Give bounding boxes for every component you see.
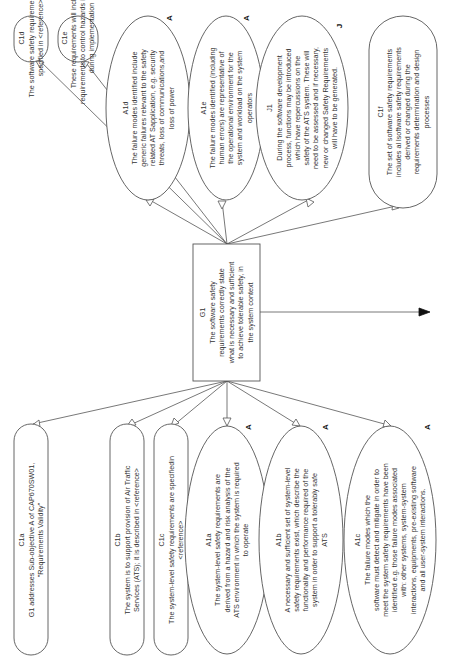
node-text-line: Services (ATS); it is described in <refe… <box>132 468 141 612</box>
goal-id-label: G1 <box>198 308 207 318</box>
node-text-line: process, functions may be introduced <box>284 48 293 167</box>
node-id-label: C1c <box>157 533 166 546</box>
node-c1b[interactable]: C1bThe system is to support provision of… <box>110 424 144 655</box>
assumption-tag: A <box>423 424 432 430</box>
node-text-line: need to be assessed and if necessary, <box>311 47 320 169</box>
node-text-line: which have repercussions on the <box>293 56 302 162</box>
node-text-line: The system is to support provision of Ai… <box>123 465 132 614</box>
node-c1d[interactable]: C1dThe software safety requirements ares… <box>14 0 48 98</box>
edge-g1-c1f <box>227 206 396 244</box>
node-text-line: interactions, equipments, pre-existing s… <box>409 466 418 614</box>
node-c1a[interactable]: C1aG1 addresses Sub-objective A of CAP67… <box>14 424 48 655</box>
edge-g1-a1b <box>227 381 298 425</box>
node-a1e[interactable]: A1eThe failure modes identified (includi… <box>188 15 264 200</box>
node-text-line: to operate <box>241 524 250 556</box>
edges-bottom <box>31 381 391 427</box>
node-id-label: C1d <box>17 31 26 44</box>
node-text-line: The set of software safety requirements <box>385 48 394 175</box>
goal-text-line: The software safety <box>208 281 217 344</box>
goal-text-line: the system context <box>246 283 255 343</box>
node-text-line: will have to be generated. <box>330 67 339 150</box>
assumption-tag: A <box>165 15 174 21</box>
node-text-line: new or changed Safety Requirements <box>321 47 330 168</box>
assumption-tag: A <box>242 15 251 21</box>
edge-g1-c1a <box>33 381 227 424</box>
arrowhead-a1e <box>218 201 226 209</box>
node-a1b[interactable]: A1bA necessary and sufficient set of sys… <box>259 424 343 654</box>
node-id-label: A1d <box>121 102 130 115</box>
node-text-line: during implementation <box>87 3 96 74</box>
node-id-label: A1b <box>274 534 283 547</box>
node-text-line: "Requirements Validity" <box>36 502 45 577</box>
node-j1[interactable]: J1During the software developmentprocess… <box>256 16 348 200</box>
edge-g1-c1b <box>130 381 227 425</box>
solution-arrow <box>260 308 430 316</box>
goal-text-line: requirements correctly state <box>217 268 226 357</box>
node-text-line: ATS <box>320 533 329 547</box>
node-a1d[interactable]: A1dThe failure modes identified includeg… <box>106 15 190 200</box>
node-a1a[interactable]: A1aThe system-level safety requirements … <box>185 424 269 654</box>
node-text-line: <reference> <box>176 521 185 560</box>
node-c1e[interactable]: C1eThese requirements will includerequir… <box>58 0 98 104</box>
node-text-line: These requirements will include <box>69 0 78 88</box>
node-id-label: A1a <box>204 534 213 547</box>
arrowhead-a1a <box>223 418 231 426</box>
goal-text-line: to achieve tolerable safety, in <box>236 266 245 359</box>
node-id-label: C1e <box>60 31 69 44</box>
node-text-line: system and workload on the system <box>235 51 244 165</box>
node-id-label: C1b <box>113 533 122 546</box>
node-text-line: safety requirements exist, which describ… <box>292 468 301 611</box>
node-text-line: loss of power <box>167 86 176 129</box>
edge-g1-c1c <box>174 381 227 425</box>
node-text-line: The software safety requirements are <box>27 0 36 98</box>
node-text-line: safety of the ATS system. These will <box>302 50 311 165</box>
node-c1c[interactable]: C1cThe system-level safety requirements … <box>154 424 188 655</box>
node-text-line: human errors) are representative of <box>217 51 226 164</box>
node-text-line: requirements determination and design <box>412 50 421 175</box>
solid-arrowhead-icon <box>419 308 430 316</box>
edge-g1-j1 <box>227 199 310 244</box>
gsn-diagram: G1The software safetyrequirements correc… <box>0 0 451 669</box>
node-text-line: and all user-system interactions. <box>418 488 427 591</box>
assumption-tag: A <box>321 424 330 430</box>
node-text-line: threats, loss of communications,and <box>157 51 166 166</box>
node-text-line: related AT Sapplication, e.g. security <box>148 50 157 166</box>
node-id-label: A1e <box>199 102 208 115</box>
node-text-line: system in order to support a tolerably s… <box>310 473 319 607</box>
node-id-label: C1a <box>17 533 26 546</box>
node-text-line: The failure modes which the <box>363 495 372 585</box>
node-text-line: derived or changed during the <box>403 64 412 160</box>
node-text-line: During the software development <box>275 55 284 160</box>
node-text-line: identified e.g. those failure modes asso… <box>390 468 399 612</box>
node-text-line: processes <box>422 95 431 128</box>
node-text-line: operators <box>245 92 254 123</box>
goal-g1[interactable]: G1The software safetyrequirements correc… <box>193 244 260 381</box>
node-id-label: C1f <box>376 106 385 117</box>
node-text-line: The system-level safety requirements are <box>213 474 222 606</box>
node-text-line: A necessary and sufficient set of system… <box>283 467 292 612</box>
node-text-line: The system-level safety requirements are… <box>167 456 176 624</box>
justification-tag: J <box>335 24 344 28</box>
node-text-line: G1 addresses Sub-objective A of CAP670SW… <box>27 463 36 618</box>
node-c1f[interactable]: C1fThe set of software safety requiremen… <box>369 16 437 208</box>
node-text-line: generic failures relevant to the safety <box>139 49 148 167</box>
assumption-tag: A <box>244 424 253 430</box>
node-text-line: The failure modes identified (including <box>208 47 217 168</box>
node-a1c[interactable]: A1cThe failure modes which thesoftware m… <box>344 424 436 654</box>
node-text-line: with: other systems, system-system <box>399 483 408 597</box>
node-text-line: includes al lsoftware safety requirement… <box>394 47 403 177</box>
node-text-line: software must detect and mitigate in ord… <box>372 469 381 611</box>
node-text-line: requirements to control hazards identifi… <box>78 0 87 104</box>
node-text-line: specified in <reference> <box>36 0 45 76</box>
node-text-line: ATS environment in which the system is r… <box>232 462 241 617</box>
node-text-line: derived from a hazard and risk analysis … <box>223 467 232 612</box>
node-id-label: J1 <box>265 104 274 112</box>
arrowhead-a1b <box>292 419 300 426</box>
edge-g1-a1c <box>227 381 388 425</box>
node-text-line: meet the system safety requirements have… <box>381 463 390 616</box>
node-text-line: functionality and performance required o… <box>301 469 310 612</box>
node-id-label: A1c <box>353 533 362 546</box>
node-text: J1During the software developmentprocess… <box>265 47 338 169</box>
node-text-line: the operational environment for the <box>226 52 235 163</box>
goal-text-line: what is necessary and sufficient <box>227 262 236 364</box>
